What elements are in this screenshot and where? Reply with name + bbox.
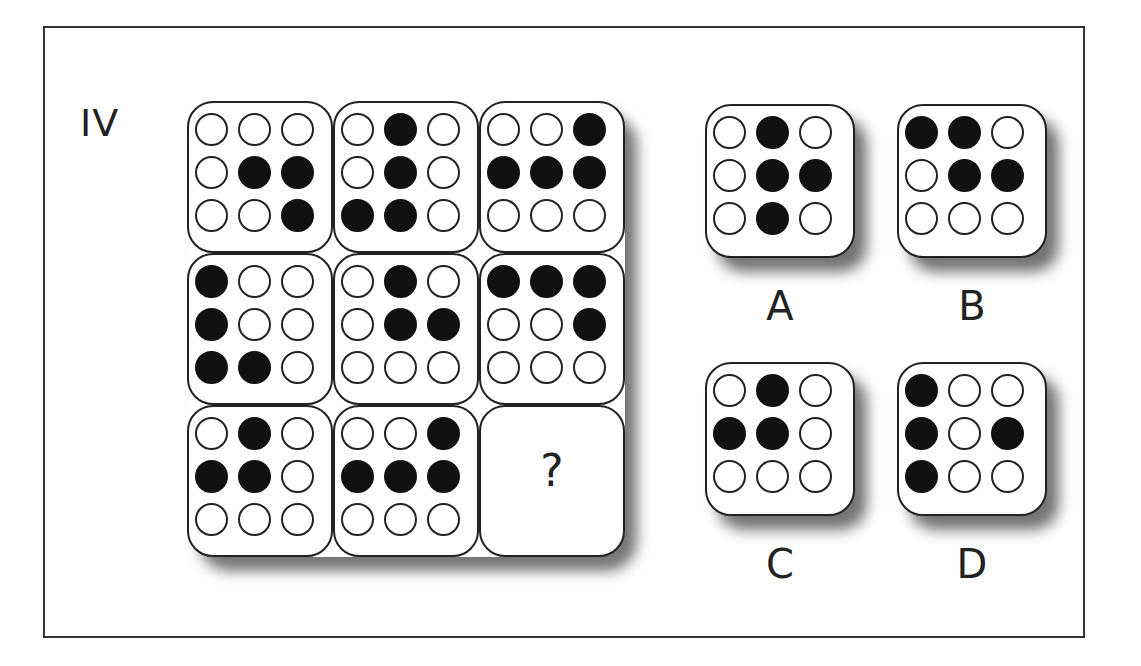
filled-dot-icon (756, 374, 789, 407)
filled-dot-icon (948, 159, 981, 192)
filled-dot-icon (905, 460, 938, 493)
empty-dot-icon (530, 308, 563, 341)
empty-dot-icon (238, 265, 271, 298)
missing-cell[interactable]: ? (479, 405, 625, 557)
filled-dot-icon (573, 265, 606, 298)
empty-dot-icon (238, 113, 271, 146)
option-b[interactable] (897, 104, 1047, 258)
matrix-cell (333, 405, 479, 557)
empty-dot-icon (281, 417, 314, 450)
filled-dot-icon (384, 265, 417, 298)
empty-dot-icon (195, 503, 228, 536)
empty-dot-icon (713, 202, 746, 235)
matrix-cell (187, 405, 333, 557)
filled-dot-icon (713, 417, 746, 450)
empty-dot-icon (991, 374, 1024, 407)
filled-dot-icon (427, 417, 460, 450)
empty-dot-icon (281, 113, 314, 146)
filled-dot-icon (195, 460, 228, 493)
option-label-d[interactable]: D (897, 544, 1047, 584)
empty-dot-icon (281, 351, 314, 384)
empty-dot-icon (948, 202, 981, 235)
empty-dot-icon (530, 113, 563, 146)
empty-dot-icon (341, 503, 374, 536)
option-c[interactable] (705, 362, 855, 516)
option-label-a[interactable]: A (705, 286, 855, 326)
empty-dot-icon (427, 113, 460, 146)
empty-dot-icon (487, 308, 520, 341)
filled-dot-icon (238, 351, 271, 384)
empty-dot-icon (799, 202, 832, 235)
empty-dot-icon (427, 156, 460, 189)
empty-dot-icon (713, 460, 746, 493)
filled-dot-icon (799, 159, 832, 192)
matrix-cell (479, 101, 625, 253)
empty-dot-icon (799, 116, 832, 149)
empty-dot-icon (487, 113, 520, 146)
empty-dot-icon (905, 202, 938, 235)
filled-dot-icon (530, 265, 563, 298)
empty-dot-icon (195, 417, 228, 450)
empty-dot-icon (487, 199, 520, 232)
empty-dot-icon (991, 202, 1024, 235)
filled-dot-icon (756, 159, 789, 192)
filled-dot-icon (341, 460, 374, 493)
option-a[interactable] (705, 104, 855, 258)
empty-dot-icon (281, 503, 314, 536)
empty-dot-icon (384, 417, 417, 450)
empty-dot-icon (341, 113, 374, 146)
filled-dot-icon (905, 374, 938, 407)
empty-dot-icon (948, 374, 981, 407)
empty-dot-icon (427, 199, 460, 232)
empty-dot-icon (487, 351, 520, 384)
question-mark: ? (481, 449, 623, 493)
empty-dot-icon (530, 199, 563, 232)
empty-dot-icon (799, 460, 832, 493)
empty-dot-icon (238, 308, 271, 341)
filled-dot-icon (281, 199, 314, 232)
empty-dot-icon (195, 199, 228, 232)
filled-dot-icon (281, 156, 314, 189)
filled-dot-icon (756, 116, 789, 149)
filled-dot-icon (991, 417, 1024, 450)
empty-dot-icon (281, 460, 314, 493)
filled-dot-icon (948, 116, 981, 149)
filled-dot-icon (384, 199, 417, 232)
filled-dot-icon (238, 156, 271, 189)
empty-dot-icon (341, 417, 374, 450)
matrix-cell (479, 253, 625, 405)
empty-dot-icon (281, 265, 314, 298)
empty-dot-icon (341, 156, 374, 189)
filled-dot-icon (384, 113, 417, 146)
set-label: IV (80, 104, 119, 142)
empty-dot-icon (195, 156, 228, 189)
filled-dot-icon (195, 351, 228, 384)
empty-dot-icon (948, 417, 981, 450)
empty-dot-icon (905, 159, 938, 192)
filled-dot-icon (238, 417, 271, 450)
empty-dot-icon (427, 265, 460, 298)
empty-dot-icon (573, 199, 606, 232)
filled-dot-icon (384, 460, 417, 493)
empty-dot-icon (384, 503, 417, 536)
option-d[interactable] (897, 362, 1047, 516)
empty-dot-icon (281, 308, 314, 341)
option-label-b[interactable]: B (897, 286, 1047, 326)
empty-dot-icon (991, 460, 1024, 493)
filled-dot-icon (384, 308, 417, 341)
empty-dot-icon (948, 460, 981, 493)
empty-dot-icon (341, 265, 374, 298)
empty-dot-icon (238, 199, 271, 232)
empty-dot-icon (195, 113, 228, 146)
empty-dot-icon (530, 351, 563, 384)
empty-dot-icon (427, 503, 460, 536)
option-label-c[interactable]: C (705, 544, 855, 584)
filled-dot-icon (905, 116, 938, 149)
matrix-cell (187, 253, 333, 405)
matrix-cell (333, 101, 479, 253)
empty-dot-icon (341, 308, 374, 341)
empty-dot-icon (799, 374, 832, 407)
filled-dot-icon (573, 308, 606, 341)
filled-dot-icon (905, 417, 938, 450)
empty-dot-icon (384, 351, 417, 384)
